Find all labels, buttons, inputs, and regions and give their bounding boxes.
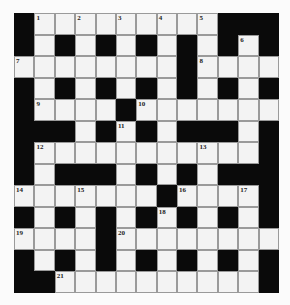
letter-cell[interactable]: [197, 250, 217, 272]
letter-cell[interactable]: [157, 35, 177, 57]
letter-cell[interactable]: [218, 271, 238, 293]
letter-cell[interactable]: [116, 164, 136, 186]
letter-cell[interactable]: [157, 271, 177, 293]
letter-cell[interactable]: 11: [116, 121, 136, 143]
letter-cell[interactable]: 8: [197, 56, 217, 78]
letter-cell[interactable]: [197, 99, 217, 121]
letter-cell[interactable]: [55, 13, 75, 35]
letter-cell[interactable]: [96, 142, 116, 164]
letter-cell[interactable]: 20: [116, 228, 136, 250]
letter-cell[interactable]: [116, 56, 136, 78]
letter-cell[interactable]: [116, 78, 136, 100]
letter-cell[interactable]: 3: [116, 13, 136, 35]
letter-cell[interactable]: [34, 78, 54, 100]
letter-cell[interactable]: [55, 142, 75, 164]
letter-cell[interactable]: [218, 228, 238, 250]
letter-cell[interactable]: [218, 99, 238, 121]
letter-cell[interactable]: [55, 228, 75, 250]
letter-cell[interactable]: [218, 142, 238, 164]
letter-cell[interactable]: [136, 142, 156, 164]
letter-cell[interactable]: [34, 164, 54, 186]
letter-cell[interactable]: [75, 142, 95, 164]
letter-cell[interactable]: [75, 207, 95, 229]
letter-cell[interactable]: [238, 228, 258, 250]
letter-cell[interactable]: [136, 13, 156, 35]
letter-cell[interactable]: [34, 185, 54, 207]
letter-cell[interactable]: [157, 228, 177, 250]
letter-cell[interactable]: [238, 99, 258, 121]
letter-cell[interactable]: 21: [55, 271, 75, 293]
letter-cell[interactable]: 1: [34, 13, 54, 35]
letter-cell[interactable]: [96, 56, 116, 78]
letter-cell[interactable]: 10: [136, 99, 156, 121]
letter-cell[interactable]: [136, 271, 156, 293]
letter-cell[interactable]: [55, 99, 75, 121]
letter-cell[interactable]: [197, 35, 217, 57]
letter-cell[interactable]: 4: [157, 13, 177, 35]
letter-cell[interactable]: [259, 99, 279, 121]
letter-cell[interactable]: [75, 35, 95, 57]
letter-cell[interactable]: [197, 207, 217, 229]
letter-cell[interactable]: [75, 250, 95, 272]
letter-cell[interactable]: [157, 121, 177, 143]
letter-cell[interactable]: [75, 56, 95, 78]
letter-cell[interactable]: [238, 78, 258, 100]
letter-cell[interactable]: 13: [197, 142, 217, 164]
letter-cell[interactable]: [55, 185, 75, 207]
letter-cell[interactable]: [96, 271, 116, 293]
letter-cell[interactable]: [238, 207, 258, 229]
letter-cell[interactable]: [157, 99, 177, 121]
letter-cell[interactable]: [34, 250, 54, 272]
letter-cell[interactable]: [96, 99, 116, 121]
letter-cell[interactable]: [238, 56, 258, 78]
letter-cell[interactable]: [136, 56, 156, 78]
letter-cell[interactable]: [157, 164, 177, 186]
letter-cell[interactable]: [96, 13, 116, 35]
letter-cell[interactable]: [197, 228, 217, 250]
letter-cell[interactable]: 2: [75, 13, 95, 35]
letter-cell[interactable]: [197, 271, 217, 293]
letter-cell[interactable]: [259, 56, 279, 78]
letter-cell[interactable]: [55, 56, 75, 78]
letter-cell[interactable]: [34, 56, 54, 78]
letter-cell[interactable]: [157, 142, 177, 164]
letter-cell[interactable]: [136, 185, 156, 207]
letter-cell[interactable]: [197, 78, 217, 100]
letter-cell[interactable]: [75, 121, 95, 143]
letter-cell[interactable]: [177, 271, 197, 293]
letter-cell[interactable]: [157, 78, 177, 100]
letter-cell[interactable]: [116, 142, 136, 164]
letter-cell[interactable]: [238, 271, 258, 293]
letter-cell[interactable]: [238, 250, 258, 272]
letter-cell[interactable]: [259, 228, 279, 250]
letter-cell[interactable]: [238, 142, 258, 164]
letter-cell[interactable]: [177, 13, 197, 35]
letter-cell[interactable]: 19: [14, 228, 34, 250]
letter-cell[interactable]: [75, 271, 95, 293]
letter-cell[interactable]: [116, 35, 136, 57]
letter-cell[interactable]: 7: [14, 56, 34, 78]
letter-cell[interactable]: 12: [34, 142, 54, 164]
letter-cell[interactable]: [75, 78, 95, 100]
letter-cell[interactable]: [157, 250, 177, 272]
letter-cell[interactable]: [34, 207, 54, 229]
letter-cell[interactable]: [238, 121, 258, 143]
letter-cell[interactable]: 5: [197, 13, 217, 35]
letter-cell[interactable]: [75, 228, 95, 250]
letter-cell[interactable]: [116, 271, 136, 293]
letter-cell[interactable]: [177, 228, 197, 250]
letter-cell[interactable]: [177, 142, 197, 164]
letter-cell[interactable]: [197, 185, 217, 207]
letter-cell[interactable]: [34, 228, 54, 250]
letter-cell[interactable]: [75, 99, 95, 121]
letter-cell[interactable]: [96, 185, 116, 207]
letter-cell[interactable]: 16: [177, 185, 197, 207]
letter-cell[interactable]: [157, 56, 177, 78]
letter-cell[interactable]: 15: [75, 185, 95, 207]
letter-cell[interactable]: 18: [157, 207, 177, 229]
letter-cell[interactable]: [34, 35, 54, 57]
letter-cell[interactable]: [116, 185, 136, 207]
letter-cell[interactable]: [177, 99, 197, 121]
letter-cell[interactable]: 6: [238, 35, 258, 57]
letter-cell[interactable]: [218, 185, 238, 207]
